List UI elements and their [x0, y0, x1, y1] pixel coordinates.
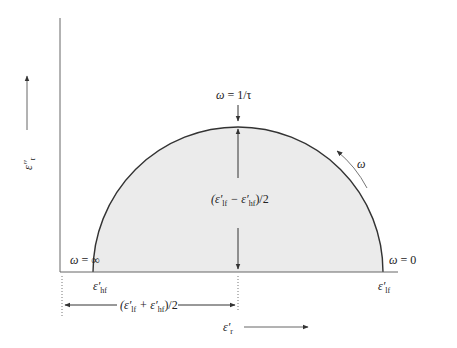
peak-frequency-label: ω = 1/τ: [216, 89, 251, 101]
y-axis-label: ε″r: [22, 158, 37, 170]
omega-infinity-label: ω = ∞: [70, 254, 100, 266]
radius-label: (ε′lf − ε′hf)/2: [211, 193, 269, 208]
eps-hf-label: ε′hf: [93, 280, 107, 295]
center-label: (ε′lf + ε′hf)/2: [120, 299, 178, 314]
eps-lf-label: ε′lf: [378, 280, 390, 295]
cole-cole-diagram: [0, 0, 457, 348]
x-axis-label: ε′r: [223, 321, 233, 336]
omega-direction-label: ω: [357, 158, 365, 170]
omega-zero-label: ω = 0: [389, 254, 416, 266]
